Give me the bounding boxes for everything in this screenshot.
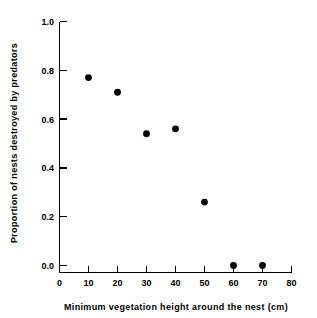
x-axis-tick-labels: 0 10 20 30 40 50 60 70 80 [57,278,297,288]
data-point[interactable] [143,130,150,137]
scatter-plot-figure: 1.0 0.8 0.6 0.4 0.2 0.0 0 10 20 30 40 50… [0,0,317,318]
x-axis-ticks [60,266,292,273]
y-tick-label: 0.4 [41,163,54,173]
y-axis-ticks [60,22,67,266]
y-tick-label: 0.6 [41,115,54,125]
y-tick-label: 1.0 [41,17,54,27]
y-tick-label: 0.0 [41,261,54,271]
data-point[interactable] [85,74,92,81]
y-axis-tick-labels: 1.0 0.8 0.6 0.4 0.2 0.0 [41,17,54,271]
x-tick-label: 50 [199,278,209,288]
x-tick-label: 80 [286,278,296,288]
data-point[interactable] [201,199,208,206]
x-axis-title: Minimum vegetation height around the nes… [64,302,288,312]
plot-canvas: 1.0 0.8 0.6 0.4 0.2 0.0 0 10 20 30 40 50… [0,0,317,318]
x-tick-label: 30 [141,278,151,288]
x-tick-label: 10 [83,278,93,288]
data-point[interactable] [114,89,121,96]
x-tick-label: 40 [170,278,180,288]
x-tick-label: 20 [112,278,122,288]
data-point[interactable] [259,262,266,269]
x-tick-label: 0 [57,278,62,288]
data-point[interactable] [230,262,237,269]
x-tick-label: 60 [228,278,238,288]
x-tick-label: 70 [257,278,267,288]
data-point-series [85,74,266,269]
y-tick-label: 0.2 [41,212,54,222]
data-point[interactable] [172,125,179,132]
y-axis-title: Proportion of nests destroyed by predato… [9,43,19,243]
y-tick-label: 0.8 [41,66,54,76]
